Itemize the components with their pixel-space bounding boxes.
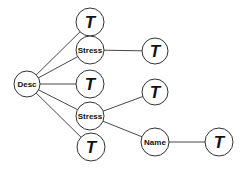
node-t3: T	[77, 133, 105, 161]
node-desc: Desc	[14, 71, 40, 97]
node-label: Name	[144, 138, 166, 147]
node-label: Desc	[17, 80, 37, 89]
node-t1: T	[76, 8, 104, 36]
edges-layer	[27, 22, 219, 147]
nodes-layer: DescTStressTStressTTTNameT	[14, 8, 233, 161]
node-stress2: Stress	[76, 102, 104, 130]
node-t4: T	[142, 38, 168, 64]
node-label: Stress	[78, 46, 103, 55]
node-label: Stress	[78, 112, 103, 121]
node-label: T	[214, 133, 226, 152]
node-name: Name	[141, 128, 169, 156]
node-label: T	[150, 83, 162, 102]
node-t2: T	[76, 70, 104, 98]
node-label: T	[150, 42, 162, 61]
node-t5: T	[142, 79, 168, 105]
tree-diagram: DescTStressTStressTTTNameT	[0, 0, 242, 170]
node-t6: T	[205, 128, 233, 156]
node-label: T	[85, 75, 97, 94]
node-stress1: Stress	[76, 36, 104, 64]
diagram-svg: DescTStressTStressTTTNameT	[0, 0, 242, 170]
node-label: T	[85, 13, 97, 32]
node-label: T	[86, 138, 98, 157]
